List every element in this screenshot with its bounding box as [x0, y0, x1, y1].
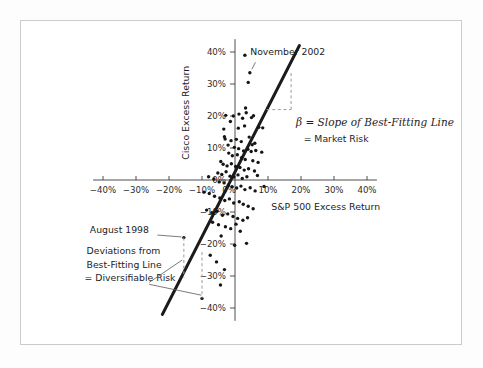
- data-point: [229, 227, 232, 230]
- data-point: [223, 137, 226, 140]
- data-point: [224, 225, 227, 228]
- x-tick-label: −10%: [189, 185, 215, 195]
- data-point: [247, 81, 250, 84]
- august-1998-leader-line: [157, 235, 181, 237]
- data-point: [217, 180, 220, 183]
- y-tick-label: −20%: [200, 239, 226, 249]
- data-point: [212, 177, 215, 180]
- data-point: [243, 188, 246, 191]
- beta-definition-line-1: β = Slope of Best-Fitting Line: [295, 116, 454, 128]
- data-point: [229, 120, 232, 123]
- data-point: [237, 112, 240, 115]
- data-point: [239, 230, 242, 233]
- data-point: [237, 126, 240, 129]
- data-point: [224, 170, 227, 173]
- data-point: [230, 185, 233, 188]
- data-point: [253, 169, 256, 172]
- x-axis-title: S&P 500 Excess Return: [271, 201, 380, 212]
- data-point: [205, 208, 208, 211]
- data-point: [251, 207, 254, 210]
- y-axis-title: Cisco Excess Return: [180, 66, 191, 160]
- data-point: [207, 175, 210, 178]
- data-point: [232, 114, 235, 117]
- data-point: [233, 146, 236, 149]
- y-tick-label: 30%: [207, 79, 226, 89]
- data-point: [256, 161, 259, 164]
- x-tick-label: −30%: [123, 185, 149, 195]
- x-tick-label: −20%: [156, 185, 182, 195]
- y-tick-label: −40%: [200, 303, 226, 313]
- data-point: [228, 197, 231, 200]
- data-point: [249, 150, 252, 153]
- x-tick-label: 40%: [357, 185, 376, 195]
- data-point: [245, 175, 248, 178]
- data-point: [217, 223, 220, 226]
- data-point: [253, 142, 256, 145]
- data-point: [234, 222, 237, 225]
- data-point: [238, 200, 241, 203]
- y-tick-label: 40%: [207, 47, 226, 57]
- data-point: [225, 164, 228, 167]
- data-point: [209, 254, 212, 257]
- data-point: [248, 186, 251, 189]
- data-point: [208, 192, 211, 195]
- data-point: [216, 171, 219, 174]
- data-point: [226, 212, 229, 215]
- data-point: [240, 140, 243, 143]
- data-point: [254, 149, 257, 152]
- data-point: [215, 210, 218, 213]
- data-point: [243, 124, 246, 127]
- data-point: [235, 138, 238, 141]
- data-point: [220, 173, 223, 176]
- data-point: [232, 175, 235, 178]
- data-point: [222, 181, 225, 184]
- data-point: [251, 159, 254, 162]
- y-tick-label: 20%: [207, 111, 226, 121]
- data-point: [246, 148, 249, 151]
- data-point: [223, 268, 226, 271]
- data-point: [238, 166, 241, 169]
- data-point: [247, 135, 250, 138]
- data-point: [210, 211, 213, 214]
- data-point: [244, 158, 247, 161]
- data-point: [239, 184, 242, 187]
- data-point: [247, 167, 250, 170]
- data-point: [248, 71, 251, 74]
- data-point: [257, 126, 260, 129]
- data-point: [245, 242, 248, 245]
- data-point: [253, 189, 256, 192]
- data-point: [215, 260, 218, 263]
- data-point: [242, 149, 245, 152]
- data-point: [243, 54, 246, 57]
- data-point: [236, 173, 239, 176]
- november-2002-leader-line: [252, 62, 256, 69]
- scatter-plot: −40%−30%−20%−10%0%10%20%30%40%40%30%20%1…: [21, 21, 461, 344]
- y-tick-label: −30%: [200, 271, 226, 281]
- data-point: [256, 174, 259, 177]
- chart-frame: −40%−30%−20%−10%0%10%20%30%40%40%30%20%1…: [20, 20, 462, 345]
- data-point: [247, 205, 250, 208]
- data-point: [226, 143, 229, 146]
- data-point: [202, 190, 205, 193]
- deviations-line-2: Best-Fitting Line: [87, 259, 162, 270]
- data-point: [262, 185, 265, 188]
- data-point: [218, 196, 221, 199]
- data-point: [223, 199, 226, 202]
- data-point: [219, 283, 222, 286]
- data-point: [241, 219, 244, 222]
- x-tick-label: 10%: [258, 185, 277, 195]
- data-point: [243, 168, 246, 171]
- data-point: [231, 154, 234, 157]
- x-tick-label: 20%: [291, 185, 310, 195]
- data-point: [241, 117, 244, 120]
- data-point: [246, 216, 249, 219]
- data-point: [252, 114, 255, 117]
- beta-definition-line-2: = Market Risk: [304, 133, 370, 144]
- data-point: [237, 147, 240, 150]
- data-point: [241, 177, 244, 180]
- data-point: [233, 244, 236, 247]
- november-2002-label: November 2002: [250, 46, 325, 57]
- data-point: [261, 126, 264, 129]
- data-point: [236, 217, 239, 220]
- data-point: [235, 186, 238, 189]
